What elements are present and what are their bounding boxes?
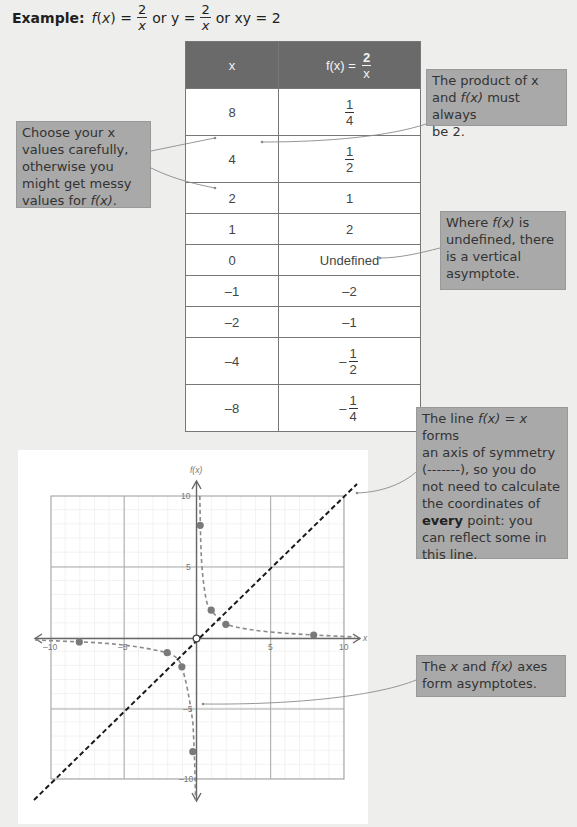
example-title: Example: f(x) = 2 x or y = 2 x or xy = 2 xyxy=(12,3,281,32)
note-vertical-asymptote: Where f(x) is undefined, there is a vert… xyxy=(440,211,566,290)
table-row: –8 –14 xyxy=(186,385,421,432)
fraction-2-over-x-second: 2 x xyxy=(200,3,210,32)
or-xy-equals-2: or xy = 2 xyxy=(216,10,281,26)
fraction-2-over-x: 2 x xyxy=(137,3,147,32)
table-header-row: x f(x) = 2 x xyxy=(186,42,421,89)
table-row: 0 Undefined xyxy=(186,245,421,276)
values-table: x f(x) = 2 x 8 14 4 12 2 1 1 2 0 Undefin… xyxy=(185,41,421,432)
example-label: Example: xyxy=(12,10,85,26)
column-header-x: x xyxy=(186,42,279,89)
table-row: 2 1 xyxy=(186,183,421,214)
note-axis-of-symmetry: The line f(x) = x forms an axis of symme… xyxy=(416,407,568,559)
note-product-is-2: The product of x and f(x) must always be… xyxy=(426,69,567,126)
table-row: –4 –12 xyxy=(186,338,421,385)
graph-card xyxy=(18,450,368,824)
table-row: 4 12 xyxy=(186,136,421,183)
note-axes-asymptotes: The x and f(x) axes form asymptotes. xyxy=(416,655,566,697)
table-row: 8 14 xyxy=(186,89,421,136)
table-row: –2 –1 xyxy=(186,307,421,338)
note-choose-x-values: Choose your x values carefully, otherwis… xyxy=(16,121,151,208)
table-row: 1 2 xyxy=(186,214,421,245)
table-row: –1 –2 xyxy=(186,276,421,307)
or-y-equals: or y = xyxy=(152,10,195,26)
column-header-fx: f(x) = 2 x xyxy=(279,42,421,89)
fx-equals: f(x) = xyxy=(92,10,132,26)
